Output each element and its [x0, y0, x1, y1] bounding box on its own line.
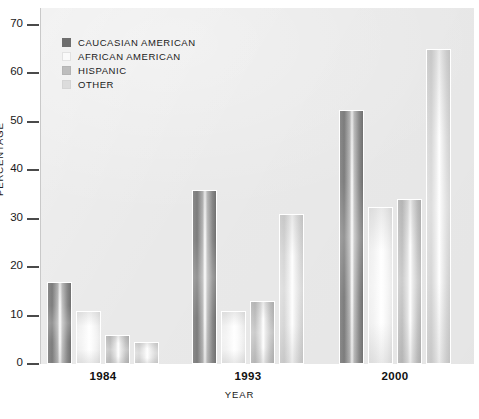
x-group-label-2000: 2000 — [355, 370, 435, 382]
bar-1984-african-american — [76, 311, 101, 364]
figure-caption — [4, 410, 474, 419]
y-tick-mark — [27, 363, 39, 365]
y-tick-label: 20 — [10, 259, 23, 271]
x-axis-title: YEAR — [0, 389, 479, 400]
legend: CAUCASIAN AMERICANAFRICAN AMERICANHISPAN… — [62, 36, 196, 92]
bar-1993-other — [279, 214, 304, 364]
y-tick-label: 30 — [10, 211, 23, 223]
bar-1984-hispanic — [105, 335, 130, 364]
y-tick-mark — [27, 72, 39, 74]
bar-2000-other — [426, 49, 451, 364]
y-tick-mark — [27, 169, 39, 171]
legend-swatch-icon — [62, 66, 71, 75]
y-axis-title: PERCENTAGE — [0, 122, 5, 196]
y-tick-mark — [27, 121, 39, 123]
bar-1993-caucasian-american — [192, 190, 217, 364]
legend-swatch-icon — [62, 38, 71, 47]
legend-label: OTHER — [78, 79, 114, 90]
legend-label: AFRICAN AMERICAN — [78, 51, 181, 62]
legend-item-caucasian-american: CAUCASIAN AMERICAN — [62, 36, 196, 49]
bar-chart-figure: 706050403020100 PERCENTAGE 198419932000 … — [0, 0, 479, 419]
bar-2000-caucasian-american — [339, 110, 364, 364]
y-tick-label: 0 — [17, 356, 23, 368]
y-tick-label: 60 — [10, 65, 23, 77]
x-axis-line — [40, 364, 474, 366]
x-group-label-1984: 1984 — [63, 370, 143, 382]
y-tick-mark — [27, 218, 39, 220]
legend-swatch-icon — [62, 52, 71, 61]
legend-label: HISPANIC — [78, 65, 127, 76]
y-tick-label: 10 — [10, 308, 23, 320]
y-tick-label: 40 — [10, 162, 23, 174]
y-tick-mark — [27, 315, 39, 317]
legend-item-other: OTHER — [62, 78, 196, 91]
y-tick-label: 70 — [10, 17, 23, 29]
legend-label: CAUCASIAN AMERICAN — [78, 37, 196, 48]
bar-1984-caucasian-american — [47, 282, 72, 364]
x-group-label-1993: 1993 — [208, 370, 288, 382]
bar-1993-african-american — [221, 311, 246, 364]
y-tick-mark — [27, 266, 39, 268]
bar-1984-other — [134, 342, 159, 364]
legend-item-hispanic: HISPANIC — [62, 64, 196, 77]
bar-2000-african-american — [368, 207, 393, 364]
y-tick-mark — [27, 24, 39, 26]
legend-swatch-icon — [62, 80, 71, 89]
bar-2000-hispanic — [397, 199, 422, 364]
y-axis-line — [40, 8, 41, 365]
bar-1993-hispanic — [250, 301, 275, 364]
legend-item-african-american: AFRICAN AMERICAN — [62, 50, 196, 63]
y-tick-label: 50 — [10, 114, 23, 126]
